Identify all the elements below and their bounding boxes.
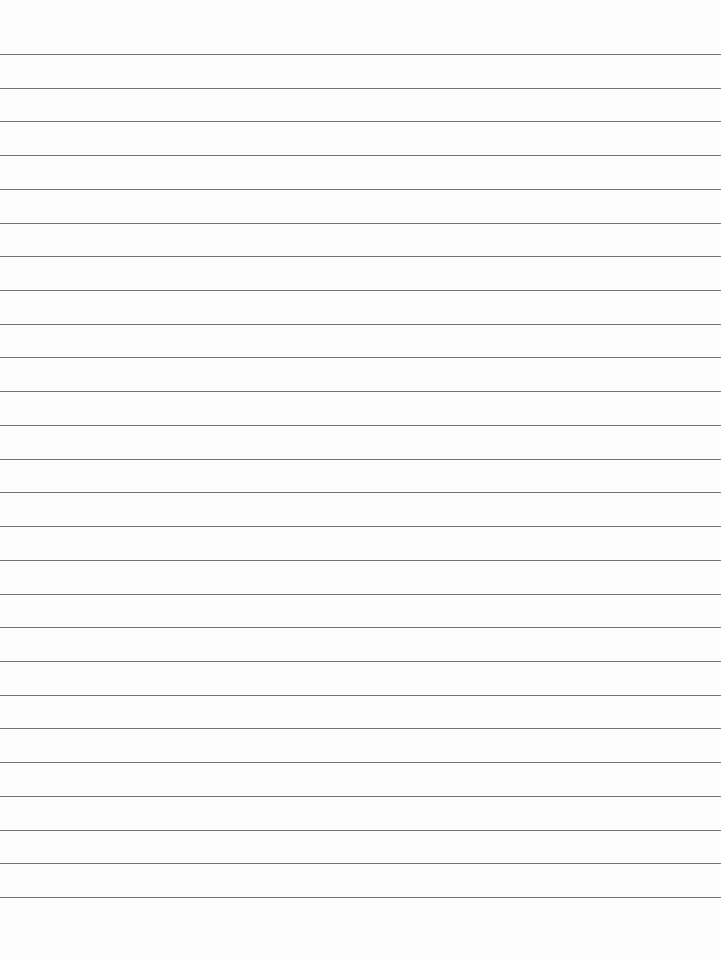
ruled-line xyxy=(0,189,721,190)
ruled-line xyxy=(0,627,721,628)
ruled-line xyxy=(0,830,721,831)
ruled-line xyxy=(0,661,721,662)
ruled-line xyxy=(0,425,721,426)
ruled-line xyxy=(0,728,721,729)
ruled-line xyxy=(0,492,721,493)
ruled-line xyxy=(0,695,721,696)
ruled-line xyxy=(0,897,721,898)
ruled-line xyxy=(0,762,721,763)
ruled-line xyxy=(0,459,721,460)
ruled-line xyxy=(0,796,721,797)
ruled-line xyxy=(0,155,721,156)
ruled-line xyxy=(0,526,721,527)
ruled-line xyxy=(0,560,721,561)
ruled-line xyxy=(0,54,721,55)
ruled-line xyxy=(0,121,721,122)
ruled-line xyxy=(0,290,721,291)
ruled-line xyxy=(0,863,721,864)
ruled-line xyxy=(0,357,721,358)
ruled-line xyxy=(0,256,721,257)
ruled-line xyxy=(0,594,721,595)
ruled-line xyxy=(0,324,721,325)
ruled-line xyxy=(0,223,721,224)
ruled-line xyxy=(0,88,721,89)
ruled-line xyxy=(0,391,721,392)
